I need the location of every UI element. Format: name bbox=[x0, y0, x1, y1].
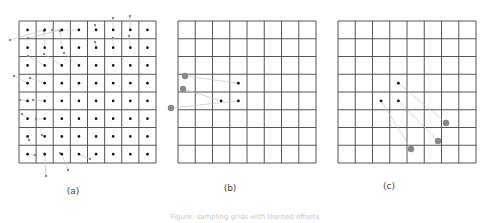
offset-point bbox=[34, 154, 36, 156]
grid-dot bbox=[43, 135, 46, 138]
grid-dot bbox=[61, 153, 64, 156]
grid-dot bbox=[112, 135, 115, 138]
offset-point bbox=[19, 99, 21, 101]
offset-point bbox=[94, 41, 96, 43]
offset-line bbox=[14, 76, 28, 83]
grid-dot bbox=[43, 82, 46, 85]
active-point bbox=[397, 82, 400, 85]
offset-point bbox=[13, 75, 15, 77]
grid-dot bbox=[26, 135, 29, 138]
grid-dot bbox=[43, 100, 46, 103]
offset-line bbox=[62, 154, 68, 170]
offset-line bbox=[183, 89, 221, 101]
panel-a bbox=[9, 15, 156, 177]
grid-dot bbox=[146, 46, 149, 49]
grid-dot bbox=[26, 100, 29, 103]
grid-dot bbox=[26, 82, 29, 85]
grid-dot bbox=[43, 153, 46, 156]
grid-dot bbox=[95, 82, 98, 85]
offset-line bbox=[30, 78, 45, 83]
grid-dot bbox=[95, 135, 98, 138]
grid-dot bbox=[61, 117, 64, 120]
grid-dot bbox=[95, 46, 98, 49]
offset-point bbox=[443, 120, 449, 126]
grid-dot bbox=[26, 64, 29, 67]
offset-point bbox=[21, 113, 23, 115]
grid-dot bbox=[61, 100, 64, 103]
offset-point bbox=[182, 73, 188, 79]
offset-point bbox=[112, 37, 114, 39]
grid-dot bbox=[112, 100, 115, 103]
grid-dot bbox=[95, 64, 98, 67]
grid-dot bbox=[26, 46, 29, 49]
active-point bbox=[237, 82, 240, 85]
panel-label-b: (b) bbox=[210, 183, 250, 193]
offset-point bbox=[43, 53, 45, 55]
grid-dot bbox=[146, 135, 149, 138]
offset-point bbox=[89, 158, 91, 160]
offset-point bbox=[29, 77, 31, 79]
offset-point bbox=[129, 15, 131, 17]
grid-dot bbox=[43, 29, 46, 32]
grid-dot bbox=[78, 117, 81, 120]
grid-dot bbox=[146, 82, 149, 85]
offset-line bbox=[44, 31, 45, 48]
offset-line bbox=[129, 36, 130, 48]
offset-line bbox=[33, 100, 45, 101]
offset-point bbox=[27, 55, 29, 57]
grid-dot bbox=[61, 29, 64, 32]
offset-point bbox=[32, 99, 34, 101]
offset-point bbox=[28, 139, 30, 141]
grid-dot bbox=[78, 82, 81, 85]
grid-dot bbox=[26, 153, 29, 156]
grid-dot bbox=[129, 117, 132, 120]
offset-point bbox=[63, 52, 65, 54]
panel-label-a: (a) bbox=[53, 186, 93, 196]
grid-dot bbox=[78, 29, 81, 32]
grid-dot bbox=[112, 117, 115, 120]
grid-dot bbox=[112, 82, 115, 85]
grid-dot bbox=[146, 29, 149, 32]
grid-dot bbox=[78, 64, 81, 67]
offset-line bbox=[185, 76, 238, 83]
panel-b bbox=[168, 21, 316, 163]
grid-dot bbox=[146, 64, 149, 67]
offset-point bbox=[128, 35, 130, 37]
grid-dot bbox=[112, 29, 115, 32]
grid-dot bbox=[129, 82, 132, 85]
offset-point bbox=[41, 134, 43, 136]
grid-dot bbox=[95, 117, 98, 120]
grid-dot bbox=[78, 100, 81, 103]
grid-dot bbox=[26, 29, 29, 32]
grid-dot bbox=[61, 82, 64, 85]
grid-dot bbox=[129, 153, 132, 156]
offset-point bbox=[180, 86, 186, 92]
offset-point bbox=[168, 105, 174, 111]
offset-point bbox=[112, 17, 114, 19]
active-point bbox=[380, 99, 383, 102]
grid-dot bbox=[129, 135, 132, 138]
offset-line bbox=[398, 83, 446, 123]
grid-dot bbox=[129, 100, 132, 103]
offset-point bbox=[94, 24, 96, 26]
offset-line bbox=[79, 154, 90, 159]
grid-dot bbox=[112, 64, 115, 67]
grid-dot bbox=[129, 29, 132, 32]
grid-dot bbox=[61, 46, 64, 49]
grid-dot bbox=[61, 135, 64, 138]
offset-line bbox=[171, 101, 238, 108]
grid-dot bbox=[95, 100, 98, 103]
offset-point bbox=[9, 39, 11, 41]
grid-dot bbox=[78, 153, 81, 156]
active-point bbox=[397, 99, 400, 102]
offset-point bbox=[45, 175, 47, 177]
offset-point bbox=[35, 118, 37, 120]
grid-dot bbox=[43, 117, 46, 120]
panel-label-c: (c) bbox=[369, 181, 409, 191]
grid-dot bbox=[146, 100, 149, 103]
grid-dot bbox=[129, 46, 132, 49]
grid-dot bbox=[61, 64, 64, 67]
offset-line bbox=[64, 53, 79, 65]
grid-dot bbox=[112, 46, 115, 49]
offset-point bbox=[408, 146, 414, 152]
